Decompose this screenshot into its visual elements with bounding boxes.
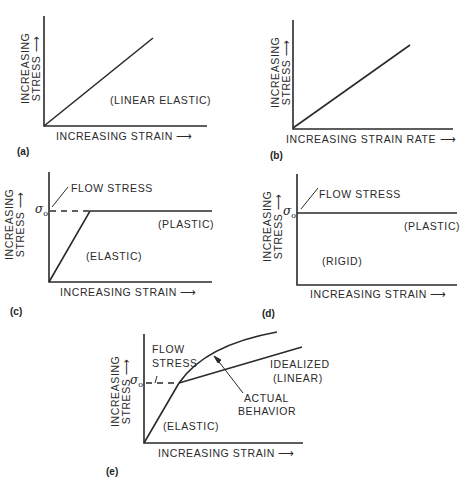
panel-c-ylabel: INCREASING STRESS ⟶ [4, 189, 26, 260]
sigma-subscript: o [43, 209, 48, 218]
ylabel-line2: STRESS ⟶ [15, 189, 26, 260]
panel-e-flow: FLOW [152, 343, 185, 355]
panel-c-xlabel: INCREASING STRAIN ⟶ [60, 286, 197, 298]
panel-e-stress-word: STRESS [152, 357, 198, 369]
panel-c-elastic: (ELASTIC) [86, 250, 142, 262]
panel-e-ylabel: INCREASING STRESS ⟶ [110, 356, 132, 427]
panel-d-sigma-o: σo [283, 204, 296, 220]
panel-d-ylabel: INCREASING STRESS ⟶ [262, 191, 284, 262]
panel-e-flow-pointer [155, 376, 157, 383]
sigma-subscript: o [291, 211, 296, 220]
panel-e-actual: ACTUAL [244, 392, 289, 404]
panel-e-xlabel: INCREASING STRAIN ⟶ [158, 447, 295, 459]
panel-a-tag: (a) [17, 146, 29, 157]
panel-d-flow-pointer [301, 188, 318, 209]
sigma-subscript: o [138, 380, 143, 389]
figure-canvas [0, 0, 468, 486]
panel-e-idealized: IDEALIZED [270, 358, 330, 370]
panel-a-xlabel: INCREASING STRAIN ⟶ [56, 130, 193, 142]
panel-c-plastic: (PLASTIC) [158, 218, 214, 230]
panel-b-tag: (b) [270, 150, 283, 161]
panel-a-line [44, 38, 153, 126]
panel-e-elastic-line [144, 383, 179, 443]
panel-c-flow-stress: FLOW STRESS [71, 182, 153, 194]
panel-e-behavior: BEHAVIOR [238, 405, 296, 417]
panel-b-xlabel: INCREASING STRAIN RATE ⟶ [286, 133, 456, 145]
panel-d-plastic: (PLASTIC) [404, 220, 460, 232]
panel-e-linear: (LINEAR) [273, 372, 323, 384]
ylabel-line2: STRESS ⟶ [31, 33, 42, 104]
panel-d-rigid: (RIGID) [322, 255, 362, 267]
panel-c-flow-pointer [52, 187, 68, 207]
panel-a-ylabel: INCREASING STRESS ⟶ [20, 33, 42, 104]
panel-e-elastic: (ELASTIC) [163, 420, 219, 432]
panel-d-xlabel: INCREASING STRAIN ⟶ [310, 288, 447, 300]
ylabel-line2: STRESS ⟶ [121, 356, 132, 427]
sigma-symbol: σ [35, 202, 43, 216]
ylabel-line2: STRESS ⟶ [281, 37, 292, 108]
panel-a-axes [44, 16, 207, 126]
panel-b-ylabel: INCREASING STRESS ⟶ [270, 37, 292, 108]
panel-d-flow-stress: FLOW STRESS [319, 188, 401, 200]
sigma-symbol: σ [130, 373, 138, 387]
panel-e-sigma-o: σo [130, 373, 143, 389]
panel-b-line [293, 45, 410, 128]
panel-e-actual-pointer [216, 358, 243, 393]
panel-c-sigma-o: σo [35, 202, 48, 218]
panel-a-annotation: (LINEAR ELASTIC) [110, 94, 211, 106]
panel-e-tag: (e) [106, 466, 118, 477]
ylabel-line2: STRESS ⟶ [273, 191, 284, 262]
sigma-symbol: σ [283, 204, 291, 218]
panel-d-tag: (d) [262, 308, 275, 319]
panel-b-axes [293, 20, 453, 129]
panel-c-tag: (c) [10, 306, 22, 317]
panel-e-actual-pointer-head [214, 356, 221, 363]
